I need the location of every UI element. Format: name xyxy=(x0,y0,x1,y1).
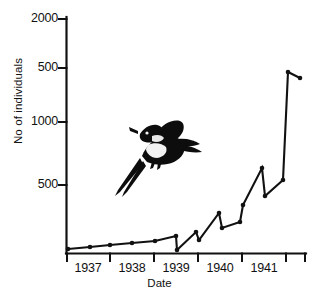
x-tick-label-1937: 1937 xyxy=(65,261,111,275)
data-point-16 xyxy=(286,70,291,75)
chart-figure: No of individuals 2000 500 1000 500 xyxy=(0,0,319,294)
flying-pheasant-illustration xyxy=(112,112,210,198)
x-tick-label-1938: 1938 xyxy=(109,261,155,275)
x-tick-label-1940: 1940 xyxy=(197,261,243,275)
data-point-0 xyxy=(66,247,71,252)
data-point-5 xyxy=(174,234,179,239)
x-axis-title: Date xyxy=(0,277,319,289)
data-point-14 xyxy=(263,194,268,199)
data-point-11 xyxy=(238,220,243,225)
x-tick-label-1939: 1939 xyxy=(153,261,199,275)
data-point-12 xyxy=(241,203,246,208)
data-point-1 xyxy=(88,245,93,250)
x-axis-ticks xyxy=(67,254,305,262)
y-axis-ticks xyxy=(59,19,67,185)
data-point-7 xyxy=(194,230,199,235)
data-point-6 xyxy=(175,248,180,253)
data-point-9 xyxy=(217,211,222,216)
data-point-10 xyxy=(220,226,225,231)
data-point-4 xyxy=(153,239,158,244)
data-point-2 xyxy=(108,243,113,248)
data-point-15 xyxy=(281,178,286,183)
data-point-13 xyxy=(260,166,265,171)
data-point-3 xyxy=(130,241,135,246)
x-tick-label-1941: 1941 xyxy=(241,261,287,275)
data-point-17 xyxy=(298,76,303,81)
data-point-8 xyxy=(197,238,202,243)
